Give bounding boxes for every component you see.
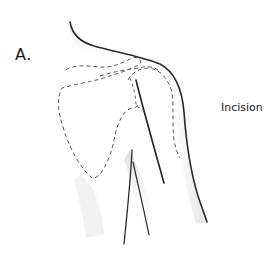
figure-canvas (0, 0, 274, 256)
shoulder-illustration (0, 0, 274, 256)
arm-outer-shading (162, 72, 205, 224)
torso-shading (74, 175, 104, 238)
clavicle-dashed-outline (100, 67, 158, 76)
incision-line (136, 80, 164, 183)
incision-label: Incision (221, 101, 263, 114)
panel-label: A. (15, 45, 32, 64)
